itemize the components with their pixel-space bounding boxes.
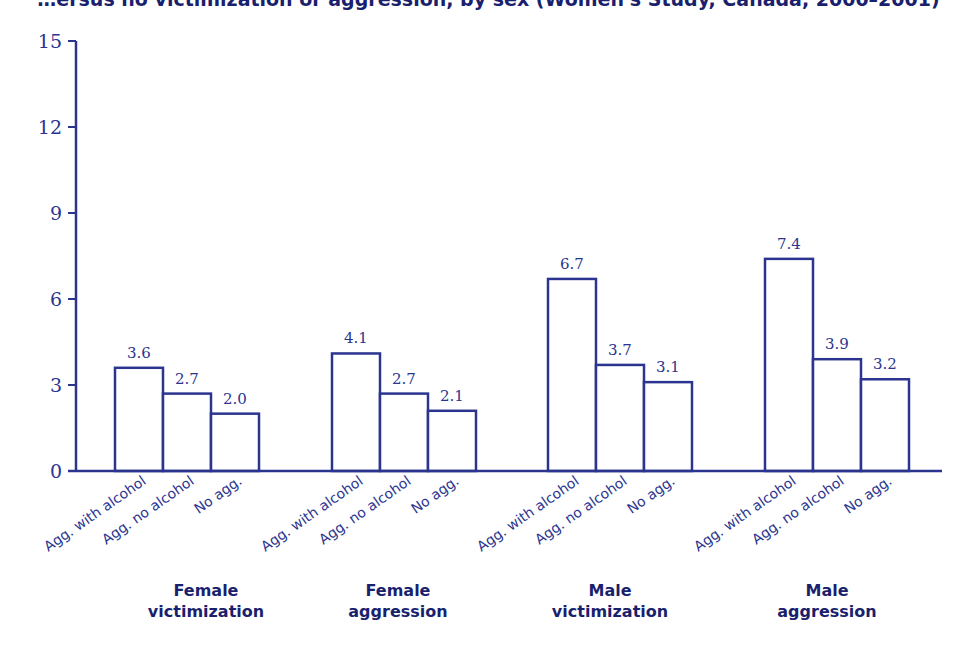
- bar: [596, 365, 644, 471]
- group-label: Male: [588, 581, 631, 600]
- group-label: aggression: [777, 602, 876, 621]
- category-label: No agg.: [624, 472, 678, 516]
- group-label: aggression: [348, 602, 447, 621]
- bar: [428, 411, 476, 471]
- y-tick-label: 9: [50, 202, 62, 224]
- category-label: No agg.: [408, 472, 462, 516]
- bar: [644, 382, 692, 471]
- bar-value-label: 3.2: [873, 355, 897, 373]
- bar: [765, 259, 813, 471]
- bar: [115, 368, 163, 471]
- bar: [548, 279, 596, 471]
- group-label: Male: [805, 581, 848, 600]
- bar-value-label: 6.7: [560, 255, 584, 273]
- bar-chart: 3.6Agg. with alcohol2.7Agg. no alcohol2.…: [0, 0, 977, 650]
- y-tick-label: 0: [50, 460, 62, 482]
- bar-value-label: 2.0: [223, 390, 247, 408]
- bar-value-label: 2.1: [440, 387, 464, 405]
- y-tick-label: 6: [50, 288, 62, 310]
- y-tick-label: 12: [38, 116, 62, 138]
- bar-value-label: 4.1: [344, 329, 368, 347]
- category-label: No agg.: [191, 472, 245, 516]
- bar-value-label: 3.6: [127, 344, 151, 362]
- bar: [861, 379, 909, 471]
- group-label: Female: [366, 581, 431, 600]
- bar-value-label: 3.7: [608, 341, 632, 359]
- bar: [211, 414, 259, 471]
- bar: [332, 353, 380, 471]
- bar-value-label: 7.4: [777, 235, 801, 253]
- bar-value-label: 3.9: [825, 335, 849, 353]
- y-tick-label: 3: [50, 374, 62, 396]
- bar: [380, 394, 428, 471]
- bar-value-label: 3.1: [656, 358, 680, 376]
- group-label: victimization: [552, 602, 668, 621]
- group-label: Female: [174, 581, 239, 600]
- category-label: No agg.: [841, 472, 895, 516]
- bar: [163, 394, 211, 471]
- bar-value-label: 2.7: [392, 370, 416, 388]
- y-tick-label: 15: [38, 30, 62, 52]
- group-label: victimization: [148, 602, 264, 621]
- bar-value-label: 2.7: [175, 370, 199, 388]
- bar: [813, 359, 861, 471]
